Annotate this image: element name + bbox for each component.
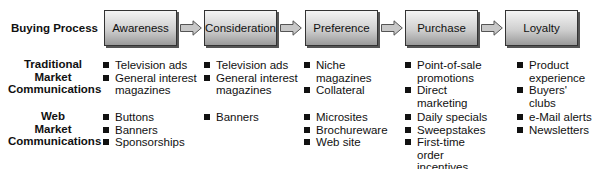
traditional-list-loyalty: Product experience Buyers' clubs [516, 59, 596, 109]
list-item: Banners [203, 111, 298, 124]
list-item: Collateral [303, 84, 403, 97]
list-item: Sweepstakes [404, 124, 494, 137]
web-list-preference: Microsites Brochureware Web site [303, 111, 403, 149]
stage-purchase: Purchase [405, 10, 478, 46]
web-list-loyalty: e-Mail alerts Newsletters [516, 111, 596, 136]
list-item: First-time order incentives [404, 136, 494, 169]
stage-preference: Preference [305, 10, 378, 46]
list-item: Television ads [203, 59, 298, 72]
arrow-right-icon [280, 20, 302, 36]
list-item: e-Mail alerts [516, 111, 596, 124]
list-item: Buyers' clubs [516, 84, 596, 109]
arrow-right-icon [180, 20, 202, 36]
list-item: Television ads [102, 59, 197, 72]
stage-consideration: Consideration [204, 10, 277, 46]
traditional-label: Traditional Market Communications [8, 58, 98, 96]
list-item: Buttons [102, 111, 197, 124]
traditional-list-awareness: Television ads General interest magazine… [102, 59, 197, 97]
list-item: Direct marketing [404, 84, 494, 109]
arrow-right-icon [481, 20, 503, 36]
traditional-list-consideration: Television ads General interest magazine… [203, 59, 298, 97]
list-item: Sponsorships [102, 136, 197, 149]
list-item: General interest magazines [203, 72, 298, 97]
traditional-list-preference: Niche magazines Collateral [303, 59, 403, 97]
label-line: Communications [8, 83, 98, 96]
web-list-purchase: Daily specials Sweepstakes First-time or… [404, 111, 494, 169]
list-item: Web site [303, 136, 403, 149]
label-line: Market [8, 123, 98, 136]
web-list-consideration: Banners [203, 111, 298, 124]
list-item: General interest magazines [102, 72, 197, 97]
buying-process-label: Buying Process [11, 22, 98, 35]
stage-awareness: Awareness [104, 10, 177, 46]
label-line: Traditional [8, 58, 98, 71]
label-line: Web [8, 110, 98, 123]
list-item: Product experience [516, 59, 596, 84]
list-item: Microsites [303, 111, 403, 124]
traditional-list-purchase: Point-of-sale promotions Direct marketin… [404, 59, 494, 109]
list-item: Banners [102, 124, 197, 137]
stage-loyalty: Loyalty [505, 10, 578, 46]
web-label: Web Market Communications [8, 110, 98, 148]
list-item: Point-of-sale promotions [404, 59, 494, 84]
web-list-awareness: Buttons Banners Sponsorships [102, 111, 197, 149]
list-item: Brochureware [303, 124, 403, 137]
arrow-right-icon [381, 20, 403, 36]
list-item: Niche magazines [303, 59, 403, 84]
list-item: Daily specials [404, 111, 494, 124]
label-line: Communications [8, 135, 98, 148]
label-line: Market [8, 71, 98, 84]
list-item: Newsletters [516, 124, 596, 137]
